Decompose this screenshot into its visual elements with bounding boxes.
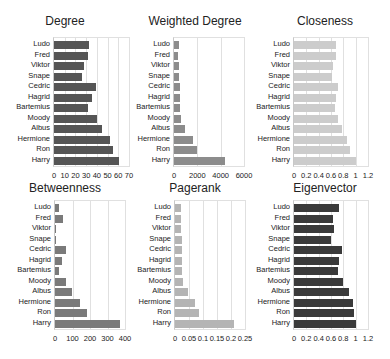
bar-harry [294,157,356,165]
category-label: Ron [36,144,50,153]
x-tick-label: 1.2 [363,334,373,343]
bar-fred [54,52,88,60]
category-label: Harry [152,155,170,164]
bar-albus [174,125,185,133]
gridline [118,38,119,166]
bar-albus [294,125,342,133]
category-label: Viktor [271,60,290,69]
bar-snape [294,73,332,81]
bar-albus [54,125,102,133]
bar-bartemius [54,104,88,112]
bar-albus [294,288,349,296]
bar-moody [294,278,343,286]
gridline [125,201,126,329]
category-label: Hermione [138,297,171,306]
bar-ludo [294,204,339,212]
gridline [197,38,198,166]
gridline [368,38,369,166]
category-label: Ludo [153,39,170,48]
bar-viktor [294,225,334,233]
plot-area [173,37,245,167]
category-label: Ludo [33,39,50,48]
bar-moody [55,278,66,286]
category-label: Albus [271,123,290,132]
gridline [244,38,245,166]
x-tick-label: 0.05 [182,334,197,343]
category-label: Harry [33,318,51,327]
gridline [231,201,232,329]
category-label: Bartemius [256,265,290,274]
bar-hermione [55,299,80,307]
category-label: Albus [271,286,290,295]
category-label: Fred [275,50,290,59]
category-label: Viktor [271,223,290,232]
category-label: Snape [148,71,170,80]
x-tick-label: 0.2 [226,334,236,343]
category-label: Hermione [137,134,170,143]
plot-area [293,200,369,330]
bar-hermione [54,136,110,144]
bar-harry [294,320,356,328]
category-label: Viktor [151,60,170,69]
category-label: Ludo [273,202,290,211]
chart-degree: DegreeLudoFredViktorSnapeCedricHagridBar… [0,0,130,180]
bar-cedric [294,83,338,91]
bar-ron [294,146,350,154]
category-label: Hagrid [148,92,170,101]
plot-area [53,37,130,167]
x-tick-label: 0.4 [313,334,323,343]
bar-ron [55,309,87,317]
category-label: Ludo [34,202,51,211]
bar-ludo [174,41,179,49]
category-label: Ludo [273,39,290,48]
gridline [203,201,204,329]
bar-bartemius [55,267,59,275]
category-label: Bartemius [256,102,290,111]
bar-albus [175,288,188,296]
plot-area [293,37,369,167]
category-label: Harry [153,318,171,327]
x-tick-label: 100 [66,334,79,343]
category-label: Viktor [31,60,50,69]
category-label: Harry [272,155,290,164]
bar-harry [174,157,225,165]
bar-harry [55,320,120,328]
category-label: Moody [27,113,50,122]
x-tick-label: 0 [292,334,296,343]
category-label: Snape [28,71,50,80]
plot-area [54,200,126,330]
bar-hermione [294,136,347,144]
gridline [108,201,109,329]
bar-viktor [54,62,84,70]
gridline [356,38,357,166]
gridline [356,201,357,329]
bar-viktor [55,225,56,233]
category-label: Cedric [268,81,290,90]
category-label: Cedric [149,244,171,253]
category-label: Ron [276,144,290,153]
gridline [245,201,246,329]
chart-title: Degree [0,14,130,28]
bar-ludo [54,41,89,49]
bar-viktor [175,225,181,233]
bar-snape [174,73,179,81]
x-tick-label: 0.6 [326,334,336,343]
category-label: Fred [36,213,51,222]
bar-fred [175,215,181,223]
bar-ludo [294,41,336,49]
category-label: Albus [31,123,50,132]
bar-bartemius [294,267,338,275]
category-label: Hagrid [149,255,171,264]
bar-ludo [55,204,59,212]
bar-hagrid [55,257,62,265]
bar-snape [175,236,182,244]
category-label: Bartemius [16,102,50,111]
bar-albus [55,288,72,296]
category-label: Viktor [32,223,51,232]
category-label: Moody [148,276,171,285]
bar-hagrid [174,94,180,102]
category-label: Snape [268,71,290,80]
bar-ron [174,146,197,154]
bar-bartemius [175,267,182,275]
category-label: Ron [37,307,51,316]
